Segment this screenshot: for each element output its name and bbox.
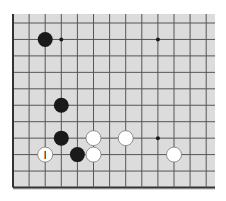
star-point bbox=[156, 37, 160, 41]
white-stone-disc bbox=[167, 147, 182, 162]
star-point bbox=[59, 37, 63, 41]
go-board[interactable]: I bbox=[0, 0, 226, 201]
white-stone bbox=[86, 131, 101, 146]
black-stone-disc bbox=[70, 147, 85, 162]
white-stone bbox=[118, 131, 133, 146]
black-stone bbox=[54, 98, 69, 113]
black-stone bbox=[54, 131, 69, 146]
white-stone-disc bbox=[118, 131, 133, 146]
white-stone bbox=[86, 147, 101, 162]
black-stone-disc bbox=[54, 98, 69, 113]
white-stone-disc bbox=[86, 147, 101, 162]
black-stone-disc bbox=[54, 131, 69, 146]
black-stone-disc bbox=[38, 32, 53, 47]
stone-label: I bbox=[44, 149, 47, 162]
black-stone bbox=[38, 32, 53, 47]
star-point bbox=[156, 136, 160, 140]
white-stone bbox=[167, 147, 182, 162]
white-stone: I bbox=[38, 147, 53, 162]
black-stone bbox=[70, 147, 85, 162]
white-stone-disc bbox=[86, 131, 101, 146]
